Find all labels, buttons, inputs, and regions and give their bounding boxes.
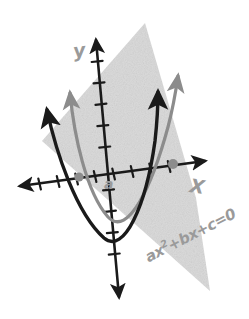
x-axis-label: X — [189, 174, 207, 198]
left-root-marker — [74, 172, 83, 181]
figure-canvas — [0, 0, 249, 319]
origin-point-label: a — [104, 176, 113, 192]
right-root-marker — [168, 159, 178, 169]
quadratic-figure: y X a ax2+bx+c=0 — [0, 0, 249, 319]
shaded-plane — [42, 23, 210, 291]
